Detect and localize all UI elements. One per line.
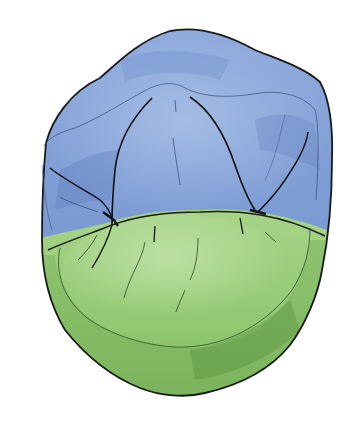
lower-highlight: [60, 215, 300, 335]
tooth-body: [0, 0, 359, 432]
figure-stage: [0, 0, 359, 432]
tooth-illustration: [0, 0, 359, 432]
